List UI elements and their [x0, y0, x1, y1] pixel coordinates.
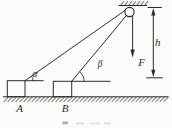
force-label: F — [137, 56, 145, 68]
angle-beta-arc — [80, 72, 84, 81]
force-arrow — [130, 16, 134, 57]
block-b-label: B — [62, 102, 69, 114]
cropped-caption-fragment — [63, 122, 112, 125]
angle-alpha-label: α — [33, 69, 39, 79]
figure-stage: F h α β A B — [0, 0, 172, 128]
height-up-arrowhead-icon — [151, 8, 155, 16]
height-label: h — [155, 36, 161, 48]
block-a — [7, 81, 25, 97]
force-arrowhead-icon — [130, 50, 134, 58]
height-down-arrowhead-icon — [151, 70, 155, 77]
angle-beta-label: β — [97, 59, 103, 69]
mechanics-diagram: F h α β A B — [0, 0, 172, 128]
block-a-label: A — [15, 102, 23, 114]
ground-hatch-icon — [4, 97, 168, 102]
ground — [3, 97, 168, 102]
rope-to-block-a — [25, 10, 125, 80]
block-b — [53, 81, 71, 96]
ceiling-support — [119, 2, 148, 6]
ceiling-hatch-icon — [121, 2, 148, 6]
